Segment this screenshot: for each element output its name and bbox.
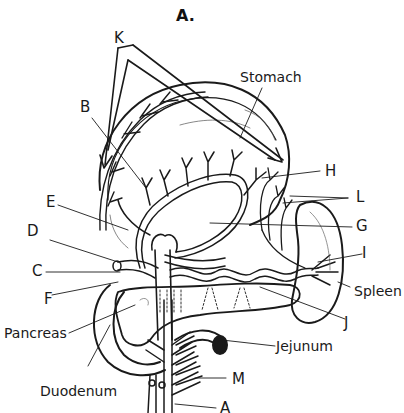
label-E: E [46,195,55,210]
leader-Jejunum [222,340,275,346]
leader-Pancreas [69,305,135,333]
K-pointer [100,45,283,168]
duodenum-shape [94,285,165,375]
leader-lines [46,88,362,408]
splenic-artery [170,255,338,285]
label-B: B [80,100,90,115]
superior-mesenteric-vessels [146,300,202,413]
label-G: G [356,219,368,234]
diagram-artwork [0,0,404,413]
label-stomach: Stomach [240,70,302,84]
label-M: M [232,372,245,387]
label-L: L [356,190,364,205]
leader-J [260,287,345,319]
leader-D [50,240,118,262]
label-K: K [114,31,124,46]
label-D: D [27,224,39,239]
label-jejunum: Jejunum [276,339,333,353]
hepatic-artery [113,260,158,278]
leader-F [52,282,118,295]
label-I: I [362,246,366,261]
label-H: H [325,164,336,179]
label-C: C [32,264,42,279]
label-A: A [220,401,230,413]
pancreas-shape [115,283,299,345]
label-J: J [344,316,348,331]
label-F: F [44,292,53,307]
label-duodenum: Duodenum [40,384,117,398]
leader-I [318,254,362,262]
label-spleen: Spleen [354,284,402,298]
label-pancreas: Pancreas [4,326,67,340]
anatomy-diagram: A. [0,0,404,413]
leader-H [262,171,320,178]
stomach-contour-lines [110,110,275,248]
leader-A [175,404,216,408]
leader-E [58,205,128,230]
